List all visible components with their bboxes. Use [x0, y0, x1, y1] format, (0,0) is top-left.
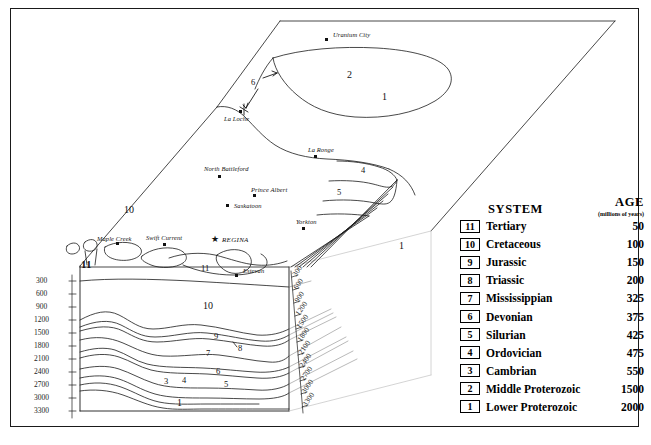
legend-age-value: 50 — [633, 220, 647, 232]
depth-left-3300: 3300 — [34, 406, 49, 415]
legend-system-name: Devonian — [486, 311, 627, 323]
legend-age-value: 150 — [627, 256, 646, 268]
legend-system-name: Lower Proterozoic — [486, 401, 621, 413]
legend-unit-number: 9 — [460, 256, 480, 269]
city-label-prince-albert: Prince Albert — [251, 186, 287, 193]
map-unit-11-cypress: 11 — [81, 258, 91, 270]
map-unit-1-north: 1 — [382, 91, 387, 102]
city-dot-estevan — [235, 274, 238, 277]
capital-star-icon: ★ — [211, 235, 219, 244]
legend-system-name: Cambrian — [486, 365, 627, 377]
legend-row: 3Cambrian550 — [460, 362, 646, 380]
legend-age-header-group: AGE (millions of years) — [598, 195, 644, 217]
city-label-yorkton: Yorkton — [296, 218, 317, 225]
city-label-estevan: Estevan — [243, 267, 264, 274]
city-label-regina: REGINA — [222, 236, 249, 244]
legend-row: 11Tertiary50 — [460, 217, 646, 235]
depth-left-1800: 1800 — [34, 341, 49, 350]
map-unit-6: 6 — [251, 77, 255, 87]
legend-unit-number: 3 — [460, 364, 480, 377]
legend-system-name: Ordovician — [486, 347, 627, 359]
legend-system-name: Silurian — [486, 329, 627, 341]
legend-unit-number: 5 — [460, 328, 480, 341]
diagram-frame: Uranium City La Loche La Ronge North Bat… — [10, 8, 639, 427]
section-unit-6: 6 — [216, 366, 220, 376]
legend-row: 5Silurian425 — [460, 326, 646, 344]
depth-left-2100: 2100 — [34, 354, 49, 363]
depth-left-3000: 3000 — [34, 393, 49, 402]
legend-row: 2Middle Proterozoic1500 — [460, 380, 646, 398]
section-unit-9: 9 — [214, 331, 218, 341]
city-dot-la-ronge — [314, 155, 317, 158]
legend-age-value: 475 — [627, 347, 646, 359]
legend-row: 10Cretaceous100 — [460, 235, 646, 253]
legend-system-header: SYSTEM — [488, 202, 543, 217]
city-label-swift-current: Swift Current — [146, 234, 182, 241]
legend-row: 1Lower Proterozoic2000 — [460, 398, 646, 416]
depth-left-1200: 1200 — [34, 315, 49, 324]
map-unit-2: 2 — [347, 69, 352, 80]
paleozoic-bands — [291, 161, 397, 267]
legend-system-name: Cretaceous — [486, 238, 627, 250]
section-unit-10: 10 — [203, 300, 213, 311]
legend-age-value: 425 — [627, 329, 646, 341]
depth-left-600: 600 — [36, 289, 47, 298]
legend-age-value: 325 — [627, 292, 646, 304]
block-edges — [80, 231, 431, 411]
depth-left-900: 900 — [36, 302, 47, 311]
map-unit-5: 5 — [337, 187, 341, 197]
legend-age-value: 100 — [627, 238, 646, 250]
legend-age-value: 2000 — [621, 401, 646, 413]
section-unit-7: 7 — [206, 348, 210, 358]
city-label-la-ronge: La Ronge — [308, 146, 334, 153]
city-label-la-loche: La Loche — [224, 115, 249, 122]
legend-system-name: Middle Proterozoic — [486, 383, 621, 395]
legend-system-name: Tertiary — [486, 220, 633, 232]
city-dot-north-battleford — [218, 175, 221, 178]
shield-unit-2-boundary — [255, 47, 451, 117]
legend-unit-number: 11 — [460, 220, 480, 233]
section-unit-8: 8 — [238, 343, 242, 353]
legend-row: 4Ordovician475 — [460, 344, 646, 362]
legend-row: 8Triassic200 — [460, 271, 646, 289]
legend-unit-number: 1 — [460, 400, 480, 413]
devonian-pointer-arrows — [240, 71, 277, 115]
section-unit-5: 5 — [224, 379, 228, 389]
legend-age-value: 1500 — [621, 383, 646, 395]
depth-left-2700: 2700 — [34, 380, 49, 389]
city-dot-saskatoon — [226, 204, 229, 207]
city-label-north-battleford: North Battleford — [204, 165, 249, 172]
city-dot-prince-albert — [253, 194, 256, 197]
city-dot-maple-creek — [116, 242, 119, 245]
diagram-page: Uranium City La Loche La Ronge North Bat… — [0, 0, 651, 445]
legend-system-name: Mississippian — [486, 292, 627, 304]
legend-age-header: AGE — [598, 195, 644, 210]
legend-system-name: Triassic — [486, 274, 627, 286]
map-unit-11-south: 11 — [201, 263, 209, 273]
city-label-maple-creek: Maple Creek — [97, 235, 132, 242]
legend-unit-number: 10 — [460, 238, 480, 251]
legend-age-value: 200 — [627, 274, 646, 286]
map-unit-1-east: 1 — [399, 240, 404, 251]
section-unit-3: 3 — [164, 376, 168, 386]
depth-left-300: 300 — [36, 276, 47, 285]
city-dot-yorkton — [302, 227, 305, 230]
city-label-uranium-city: Uranium City — [333, 31, 370, 38]
depth-left-2400: 2400 — [34, 367, 49, 376]
legend-table: SYSTEM AGE (millions of years) 11Tertiar… — [460, 195, 646, 416]
legend-row: 9Jurassic150 — [460, 253, 646, 271]
city-dot-uranium-city — [325, 38, 328, 41]
city-dot-swift-current — [163, 243, 166, 246]
legend-unit-number: 7 — [460, 292, 480, 305]
stratigraphic-horizons — [80, 279, 289, 409]
legend-unit-number: 4 — [460, 346, 480, 359]
map-unit-4: 4 — [361, 165, 365, 175]
legend-unit-number: 2 — [460, 382, 480, 395]
section-unit-4: 4 — [182, 375, 186, 385]
map-unit-10: 10 — [124, 204, 134, 215]
depth-axis-left — [69, 275, 76, 418]
legend-header-row: SYSTEM AGE (millions of years) — [460, 195, 646, 217]
legend-row: 7Mississippian325 — [460, 289, 646, 307]
city-label-saskatoon: Saskatoon — [234, 202, 262, 209]
legend-age-value: 550 — [627, 365, 646, 377]
